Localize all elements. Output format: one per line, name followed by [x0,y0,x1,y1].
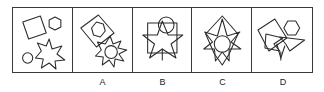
panel-strip [12,7,313,73]
option-panel-a[interactable] [73,8,134,72]
option-label-a: A [72,74,133,90]
option-label-b: B [133,74,192,90]
option-labels-row: A B C D [12,74,313,90]
circle-shape [104,46,117,59]
option-panel-d[interactable] [252,8,312,72]
hexagon-shape [91,22,105,37]
hexagon-shape [49,17,61,30]
option-c-figure [192,8,252,72]
square-shape [23,16,46,39]
circle-shape [23,53,33,63]
stem-panel [13,8,73,72]
option-b-figure [133,8,191,72]
option-label-d: D [253,74,313,90]
option-panel-c[interactable] [192,8,253,72]
option-d-figure [252,8,312,72]
burst-star-shape [95,36,126,67]
option-a-figure [73,8,133,72]
option-label-c: C [192,74,253,90]
circle-shape [214,36,230,52]
burst-star-shape [35,39,64,69]
stem-label-spacer [12,74,72,90]
figure-puzzle: A B C D [0,0,324,92]
option-panel-b[interactable] [133,8,192,72]
stem-panel-figure [13,8,72,72]
hexagon-shape [284,21,300,35]
